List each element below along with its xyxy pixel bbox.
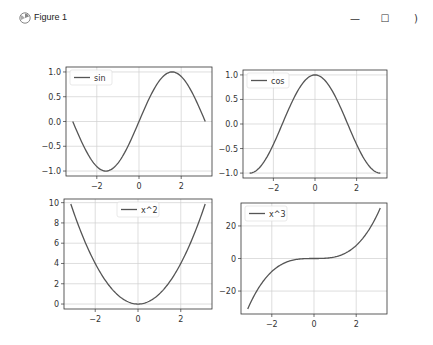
subplot-top-left: −202−1.0−0.50.00.51.0sin: [42, 67, 212, 191]
x-tick-label: 2: [178, 315, 183, 324]
y-tick-label: 0: [54, 300, 59, 309]
x-tick-label: −2: [266, 320, 278, 329]
y-tick-label: 0.5: [225, 95, 238, 104]
figure-canvas: −202−1.0−0.50.00.51.0sin−202−1.0−0.50.00…: [0, 0, 433, 345]
x-tick-label: 2: [354, 184, 359, 193]
legend-label: x^3: [269, 210, 286, 219]
x-tick-label: 0: [311, 320, 316, 329]
y-tick-label: −1.0: [42, 167, 61, 176]
x-tick-label: −2: [91, 182, 103, 191]
y-tick-label: 8: [54, 219, 59, 228]
x-tick-label: 0: [135, 315, 140, 324]
y-tick-label: −0.5: [219, 145, 238, 154]
legend-label: sin: [94, 74, 105, 83]
y-tick-label: 2: [54, 280, 59, 289]
y-tick-label: −0.5: [42, 142, 61, 151]
y-tick-label: 1.0: [225, 71, 238, 80]
y-tick-label: 1.0: [48, 68, 61, 77]
y-tick-label: 6: [54, 239, 59, 248]
x-tick-label: 0: [312, 184, 317, 193]
y-tick-label: −20: [219, 287, 236, 296]
y-tick-label: 0.0: [225, 120, 238, 129]
subplot-bottom-right: −202−20020x^3: [219, 203, 387, 329]
subplot-bottom-left: −2020246810x^2: [49, 199, 212, 324]
x-tick-label: −2: [267, 184, 279, 193]
legend-label: cos: [271, 77, 284, 86]
legend: x^2: [117, 202, 159, 217]
subplot-top-right: −202−1.0−0.50.00.51.0cos: [219, 70, 387, 193]
x-tick-label: 2: [354, 320, 359, 329]
legend: sin: [70, 70, 112, 85]
legend-label: x^2: [141, 206, 158, 215]
y-tick-label: 0: [231, 255, 236, 264]
y-tick-label: 0.0: [48, 118, 61, 127]
y-tick-label: 20: [226, 222, 236, 231]
y-tick-label: 10: [49, 199, 59, 208]
y-tick-label: 0.5: [48, 93, 61, 102]
y-tick-label: 4: [54, 259, 59, 268]
legend: x^3: [245, 206, 287, 221]
legend: cos: [247, 73, 289, 88]
y-tick-label: −1.0: [219, 169, 238, 178]
x-tick-label: 0: [136, 182, 141, 191]
x-tick-label: 2: [179, 182, 184, 191]
x-tick-label: −2: [89, 315, 101, 324]
